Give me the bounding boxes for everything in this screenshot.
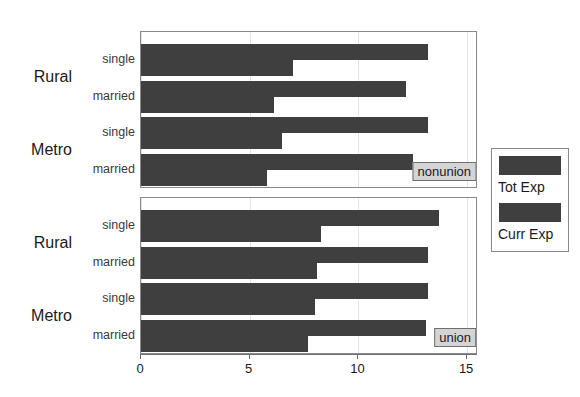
bar-curr-exp <box>141 170 267 186</box>
legend-label-tot-exp: Tot Exp <box>498 179 545 195</box>
bar-curr-exp <box>141 226 321 242</box>
x-tick-label: 15 <box>459 361 473 376</box>
legend-swatch-tot-exp <box>499 156 561 175</box>
y-tick-label-single: single <box>102 218 135 232</box>
plot-area-union <box>141 198 476 353</box>
bar-tot-exp <box>141 154 413 170</box>
legend: Tot Exp Curr Exp <box>491 148 569 252</box>
y-group-label-metro: Metro <box>31 141 72 159</box>
bar-tot-exp <box>141 81 406 97</box>
bar-curr-exp <box>141 97 274 113</box>
bar-tot-exp <box>141 320 426 336</box>
y-tick-label-single: single <box>102 291 135 305</box>
chart-figure: nonunion union singlemarriedRuralsinglem… <box>0 0 580 397</box>
x-tick <box>140 354 141 359</box>
bar-tot-exp <box>141 247 428 263</box>
bar-curr-exp <box>141 60 293 76</box>
x-axis-line <box>140 354 477 355</box>
bar-tot-exp <box>141 117 428 133</box>
x-tick <box>357 354 358 359</box>
y-tick-label-married: married <box>93 328 135 342</box>
strip-label-union: union <box>434 328 476 347</box>
y-tick-label-married: married <box>93 89 135 103</box>
bar-curr-exp <box>141 263 317 279</box>
y-group-label-rural: Rural <box>34 68 72 86</box>
x-tick-label: 0 <box>136 361 143 376</box>
strip-label-nonunion: nonunion <box>413 162 477 181</box>
y-group-label-metro: Metro <box>31 307 72 325</box>
y-tick-label-married: married <box>93 255 135 269</box>
bar-tot-exp <box>141 283 428 299</box>
panel-union <box>140 197 477 354</box>
bar-tot-exp <box>141 44 428 60</box>
y-tick-label-married: married <box>93 162 135 176</box>
bar-curr-exp <box>141 336 308 352</box>
bar-tot-exp <box>141 210 439 226</box>
x-tick <box>249 354 250 359</box>
x-tick <box>466 354 467 359</box>
y-tick-label-single: single <box>102 52 135 66</box>
legend-swatch-curr-exp <box>499 203 561 222</box>
x-tick-label: 5 <box>245 361 252 376</box>
y-tick-label-single: single <box>102 125 135 139</box>
y-group-label-rural: Rural <box>34 234 72 252</box>
x-tick-label: 10 <box>350 361 364 376</box>
bar-curr-exp <box>141 299 315 315</box>
legend-label-curr-exp: Curr Exp <box>498 226 553 242</box>
bar-curr-exp <box>141 133 282 149</box>
